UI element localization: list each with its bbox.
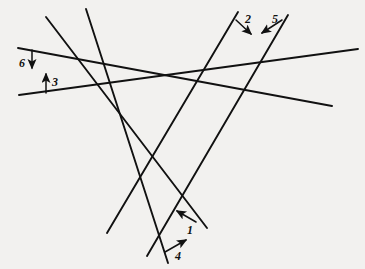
line-label-6: 6	[19, 57, 25, 69]
diagram-line-3	[19, 49, 358, 95]
figure-canvas	[0, 0, 365, 269]
line-label-3: 3	[52, 76, 58, 88]
line-arrangement-figure: 123456	[0, 0, 365, 269]
line-label-4: 4	[175, 250, 181, 262]
diagram-line-4	[86, 9, 168, 263]
diagram-line-6	[18, 48, 332, 106]
leader-arrows-group	[32, 20, 282, 252]
diagram-line-5	[147, 15, 288, 256]
line-label-1: 1	[187, 224, 193, 236]
leader-arrow-1	[177, 211, 196, 222]
line-label-5: 5	[272, 13, 278, 25]
line-label-2: 2	[245, 13, 251, 25]
